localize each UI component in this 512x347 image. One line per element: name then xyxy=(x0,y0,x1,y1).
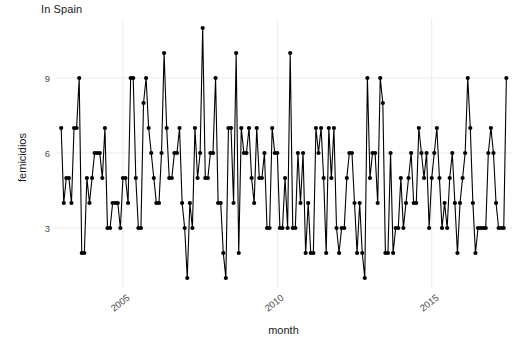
data-point xyxy=(224,276,228,280)
data-point xyxy=(67,176,71,180)
data-point xyxy=(491,151,495,155)
data-point xyxy=(252,201,256,205)
data-point xyxy=(126,201,130,205)
data-point xyxy=(237,251,241,255)
data-point xyxy=(450,151,454,155)
data-point xyxy=(406,176,410,180)
data-point xyxy=(180,201,184,205)
data-point xyxy=(378,76,382,80)
y-axis-title: femicidios xyxy=(14,25,30,290)
data-point xyxy=(87,201,91,205)
data-point xyxy=(437,176,441,180)
data-point xyxy=(432,151,436,155)
x-axis-title: month xyxy=(55,324,512,336)
data-point xyxy=(75,126,79,130)
data-point xyxy=(314,126,318,130)
data-point xyxy=(108,226,112,230)
data-point xyxy=(211,151,215,155)
data-point xyxy=(170,176,174,180)
data-point xyxy=(442,201,446,205)
data-point xyxy=(247,126,251,130)
data-point xyxy=(280,226,284,230)
plot-panel xyxy=(55,18,512,288)
data-point xyxy=(448,176,452,180)
data-point xyxy=(159,151,163,155)
data-point xyxy=(201,26,205,30)
data-point xyxy=(82,251,86,255)
data-point xyxy=(59,126,63,130)
data-point xyxy=(342,226,346,230)
data-point xyxy=(193,126,197,130)
data-point xyxy=(149,151,153,155)
data-point xyxy=(144,76,148,80)
data-point xyxy=(301,151,305,155)
data-point xyxy=(399,176,403,180)
data-point xyxy=(484,226,488,230)
data-point xyxy=(270,126,274,130)
x-tick-label: 2015 xyxy=(410,292,440,319)
data-point xyxy=(262,151,266,155)
data-point xyxy=(175,151,179,155)
data-point xyxy=(255,126,259,130)
data-point xyxy=(350,151,354,155)
chart-title: In Spain xyxy=(41,3,82,15)
data-point xyxy=(414,201,418,205)
data-point xyxy=(468,126,472,130)
data-point xyxy=(195,176,199,180)
data-point xyxy=(239,126,243,130)
data-point xyxy=(334,226,338,230)
data-point xyxy=(332,126,336,130)
data-point xyxy=(123,176,127,180)
data-point xyxy=(219,201,223,205)
data-point xyxy=(391,251,395,255)
data-point xyxy=(234,51,238,55)
data-point xyxy=(298,201,302,205)
data-point xyxy=(283,176,287,180)
data-point xyxy=(139,226,143,230)
data-point xyxy=(157,201,161,205)
data-point xyxy=(162,51,166,55)
data-point xyxy=(62,201,66,205)
data-point xyxy=(185,276,189,280)
data-point xyxy=(98,151,102,155)
data-point xyxy=(311,251,315,255)
data-point xyxy=(489,126,493,130)
data-point xyxy=(460,176,464,180)
data-point xyxy=(244,151,248,155)
data-point xyxy=(352,201,356,205)
data-point xyxy=(141,101,145,105)
data-point xyxy=(502,226,506,230)
data-point xyxy=(206,176,210,180)
data-point xyxy=(213,76,217,80)
data-point xyxy=(381,101,385,105)
data-point xyxy=(440,226,444,230)
data-point xyxy=(100,176,104,180)
data-point xyxy=(118,226,122,230)
data-point xyxy=(435,126,439,130)
data-point xyxy=(190,226,194,230)
data-point xyxy=(430,176,434,180)
data-point xyxy=(103,126,107,130)
data-point xyxy=(69,201,73,205)
chart-root: In Spain femicidios 369 200520102015 mon… xyxy=(0,0,512,347)
data-point xyxy=(134,176,138,180)
data-point xyxy=(322,176,326,180)
data-point xyxy=(327,126,331,130)
data-point xyxy=(116,201,120,205)
data-point xyxy=(463,151,467,155)
data-point xyxy=(329,176,333,180)
data-point xyxy=(345,176,349,180)
data-point xyxy=(152,176,156,180)
data-point xyxy=(360,251,364,255)
data-point xyxy=(221,251,225,255)
data-point xyxy=(494,201,498,205)
data-point xyxy=(165,126,169,130)
data-point xyxy=(419,151,423,155)
data-point xyxy=(177,126,181,130)
x-tick-label: 2010 xyxy=(256,292,286,319)
data-point xyxy=(466,76,470,80)
data-point xyxy=(358,201,362,205)
data-point xyxy=(268,226,272,230)
data-point xyxy=(250,176,254,180)
data-point xyxy=(319,126,323,130)
